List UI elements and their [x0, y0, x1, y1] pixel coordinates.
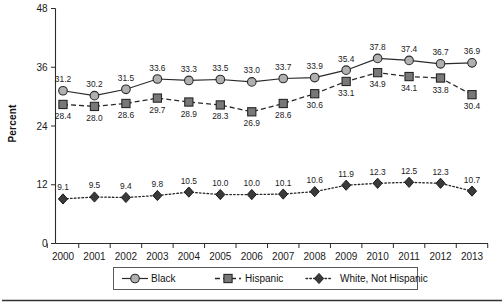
- data-point-label: 33.1: [338, 88, 355, 98]
- data-point-label: 28.4: [55, 111, 72, 121]
- data-point-marker[interactable]: [342, 180, 351, 190]
- data-point-label: 33.7: [275, 62, 292, 72]
- data-point-label: 28.6: [275, 110, 292, 120]
- data-point-label: 12.5: [401, 166, 418, 176]
- chart-legend: BlackHispanicWhite, Not Hispanic: [114, 268, 428, 290]
- data-point-label: 29.7: [149, 105, 166, 115]
- data-point-marker[interactable]: [216, 189, 225, 199]
- data-point-marker[interactable]: [279, 99, 287, 107]
- data-point-marker[interactable]: [247, 78, 256, 87]
- data-point-marker[interactable]: [90, 192, 99, 202]
- x-axis-tick-label: 2001: [83, 251, 106, 262]
- data-point-marker[interactable]: [436, 74, 444, 82]
- data-labels-container: 31.230.231.533.633.333.533.033.733.935.4…: [55, 42, 481, 193]
- data-point-label: 30.6: [307, 100, 324, 110]
- data-point-label: 33.6: [149, 63, 166, 73]
- data-point-marker[interactable]: [185, 98, 193, 106]
- data-point-marker[interactable]: [90, 102, 98, 110]
- data-point-marker[interactable]: [310, 73, 319, 82]
- data-point-label: 9.5: [89, 180, 101, 190]
- legend-item-1[interactable]: Hispanic: [215, 273, 283, 284]
- data-point-marker[interactable]: [279, 74, 288, 83]
- data-point-label: 33.9: [307, 61, 324, 71]
- x-axis-tick-label: 2011: [398, 251, 420, 262]
- data-point-marker[interactable]: [310, 187, 319, 197]
- data-point-label: 10.6: [307, 175, 324, 185]
- y-axis-tick-label: 48: [36, 3, 48, 14]
- y-axis-tick-label: 12: [36, 179, 48, 190]
- data-point-marker[interactable]: [248, 108, 256, 116]
- data-point-label: 33.0: [244, 65, 261, 75]
- data-point-marker[interactable]: [247, 189, 256, 199]
- data-point-label: 28.0: [86, 113, 103, 123]
- data-point-marker[interactable]: [122, 85, 131, 94]
- data-point-marker[interactable]: [185, 76, 194, 85]
- data-point-marker[interactable]: [153, 190, 162, 200]
- x-axis-tick-label: 2008: [304, 251, 327, 262]
- data-point-marker[interactable]: [405, 56, 414, 65]
- data-point-label: 35.4: [338, 54, 355, 64]
- data-point-label: 37.8: [369, 42, 386, 52]
- data-point-marker[interactable]: [342, 77, 350, 85]
- data-point-marker[interactable]: [122, 99, 130, 107]
- data-point-marker[interactable]: [404, 177, 413, 187]
- data-point-marker[interactable]: [436, 178, 445, 188]
- data-point-marker[interactable]: [311, 90, 319, 98]
- data-point-marker[interactable]: [374, 69, 382, 77]
- data-point-marker[interactable]: [58, 194, 67, 204]
- data-point-label: 34.1: [401, 83, 418, 93]
- data-point-marker[interactable]: [436, 60, 445, 69]
- data-point-marker[interactable]: [468, 91, 476, 99]
- data-point-marker[interactable]: [121, 192, 130, 202]
- legend-item-label: Black: [151, 273, 176, 284]
- data-point-marker[interactable]: [153, 75, 162, 84]
- data-point-label: 28.3: [212, 111, 229, 121]
- y-axis-tick-label: 36: [36, 62, 48, 73]
- data-point-marker[interactable]: [373, 54, 382, 63]
- data-point-label: 34.9: [369, 79, 386, 89]
- data-point-marker[interactable]: [216, 75, 225, 84]
- x-axis-tick-label: 2013: [461, 251, 484, 262]
- data-point-marker[interactable]: [467, 186, 476, 196]
- data-point-label: 33.3: [181, 64, 198, 74]
- y-axis: 012243648: [36, 3, 55, 249]
- data-point-marker[interactable]: [59, 100, 67, 108]
- x-axis-tick-label: 2010: [366, 251, 389, 262]
- data-point-marker[interactable]: [468, 59, 477, 68]
- data-point-label: 10.1: [275, 178, 292, 188]
- data-point-marker[interactable]: [279, 189, 288, 199]
- data-point-marker[interactable]: [373, 178, 382, 188]
- data-point-label: 28.6: [118, 110, 135, 120]
- data-point-label: 9.1: [57, 182, 69, 192]
- x-axis-tick-label: 2002: [115, 251, 138, 262]
- data-point-label: 9.8: [152, 179, 164, 189]
- x-axis-tick-label: 2012: [429, 251, 452, 262]
- x-axis-tick-label: 2007: [272, 251, 295, 262]
- data-point-label: 26.9: [244, 118, 261, 128]
- data-point-label: 10.0: [244, 178, 261, 188]
- data-point-label: 10.0: [212, 178, 229, 188]
- data-point-label: 12.3: [432, 167, 449, 177]
- data-point-label: 28.9: [181, 109, 198, 119]
- data-point-label: 30.4: [464, 101, 481, 111]
- data-point-label: 11.9: [338, 169, 354, 179]
- data-point-marker[interactable]: [342, 66, 351, 75]
- x-axis-tick-label: 2006: [241, 251, 264, 262]
- legend-item-label: Hispanic: [245, 273, 283, 284]
- legend-marker-circle-icon: [131, 274, 140, 283]
- data-point-label: 36.9: [464, 46, 481, 56]
- data-point-label: 10.7: [464, 175, 481, 185]
- data-point-label: 31.5: [118, 73, 135, 83]
- data-point-label: 10.5: [181, 176, 198, 186]
- data-point-marker[interactable]: [153, 94, 161, 102]
- x-axis-tick-label: 2005: [209, 251, 232, 262]
- x-axis-tick-label: 2000: [52, 251, 75, 262]
- data-point-label: 33.8: [432, 85, 449, 95]
- data-point-marker[interactable]: [216, 101, 224, 109]
- data-point-marker[interactable]: [59, 86, 68, 95]
- data-point-marker[interactable]: [405, 72, 413, 80]
- data-point-marker[interactable]: [184, 187, 193, 197]
- data-point-label: 33.5: [212, 63, 229, 73]
- data-point-label: 9.4: [120, 181, 132, 191]
- data-point-marker[interactable]: [90, 91, 99, 100]
